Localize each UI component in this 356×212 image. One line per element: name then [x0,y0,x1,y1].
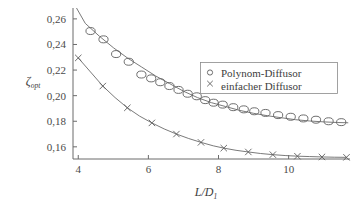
x-tick-label: 4 [76,163,82,175]
chart-background [0,0,356,212]
diffuser-loss-coefficient-chart: 0,160,180,200,220,240,26 46810 ζopt L/D1… [0,0,356,212]
x-tick-label: 8 [216,163,222,175]
chart-figure: 0,160,180,200,220,240,26 46810 ζopt L/D1… [0,0,356,212]
y-tick-label: 0,22 [47,64,66,76]
legend-label-1: einfacher Diffusor [221,80,302,92]
y-tick-label: 0,16 [47,141,67,153]
y-tick-label: 0,24 [47,38,67,50]
x-tick-label: 10 [283,163,295,175]
legend-label-0: Polynom-Diffusor [221,67,302,79]
y-tick-label: 0,26 [47,13,67,25]
chart-legend: Polynom-Diffusor einfacher Diffusor [201,63,338,94]
x-tick-label: 6 [146,163,152,175]
y-tick-label: 0,18 [47,115,67,127]
y-tick-label: 0,20 [47,90,67,102]
